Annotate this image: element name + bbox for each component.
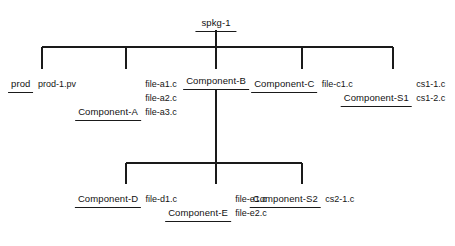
list-item: file-a1.c bbox=[145, 77, 177, 91]
node-title: Component-S2 bbox=[250, 193, 321, 208]
list-item: file-a2.c bbox=[145, 91, 177, 105]
node-title: Component-C bbox=[251, 78, 317, 93]
node-component-b: Component-B bbox=[183, 70, 249, 90]
file-list: file-a1.c file-a2.c file-a3.c bbox=[145, 77, 177, 119]
list-item: cs2-1.c bbox=[325, 192, 354, 206]
node-title: prod bbox=[8, 78, 33, 93]
node-component-d: Component-D file-d1.c bbox=[75, 185, 177, 208]
file-list: prod-1.pv bbox=[38, 77, 76, 91]
node-title: spkg-1 bbox=[195, 17, 236, 32]
node-title: Component-A bbox=[75, 106, 141, 121]
file-list: cs1-1.c cs1-2.c bbox=[416, 77, 445, 105]
node-component-a: Component-A file-a1.c file-a2.c file-a3.… bbox=[75, 70, 177, 121]
node-prod: prod prod-1.pv bbox=[8, 70, 76, 93]
list-item: cs1-2.c bbox=[416, 91, 445, 105]
node-title: Component-E bbox=[165, 207, 231, 222]
node-component-s2: Component-S2 cs2-1.c bbox=[250, 185, 355, 208]
list-item: prod-1.pv bbox=[38, 77, 76, 91]
list-item: file-a3.c bbox=[145, 105, 177, 119]
file-list: cs2-1.c bbox=[325, 192, 354, 206]
node-title: Component-S1 bbox=[341, 92, 412, 107]
list-item: file-e2.c bbox=[235, 206, 267, 220]
node-component-s1: Component-S1 cs1-1.c cs1-2.c bbox=[341, 70, 446, 107]
component-hierarchy-diagram: spkg-1 prod prod-1.pv Component-A file-a… bbox=[0, 0, 455, 246]
list-item: cs1-1.c bbox=[416, 77, 445, 91]
node-title: Component-B bbox=[183, 75, 249, 90]
node-title: Component-D bbox=[75, 193, 141, 208]
node-spkg-1: spkg-1 bbox=[195, 12, 236, 32]
node-component-c: Component-C file-c1.c bbox=[251, 70, 353, 93]
